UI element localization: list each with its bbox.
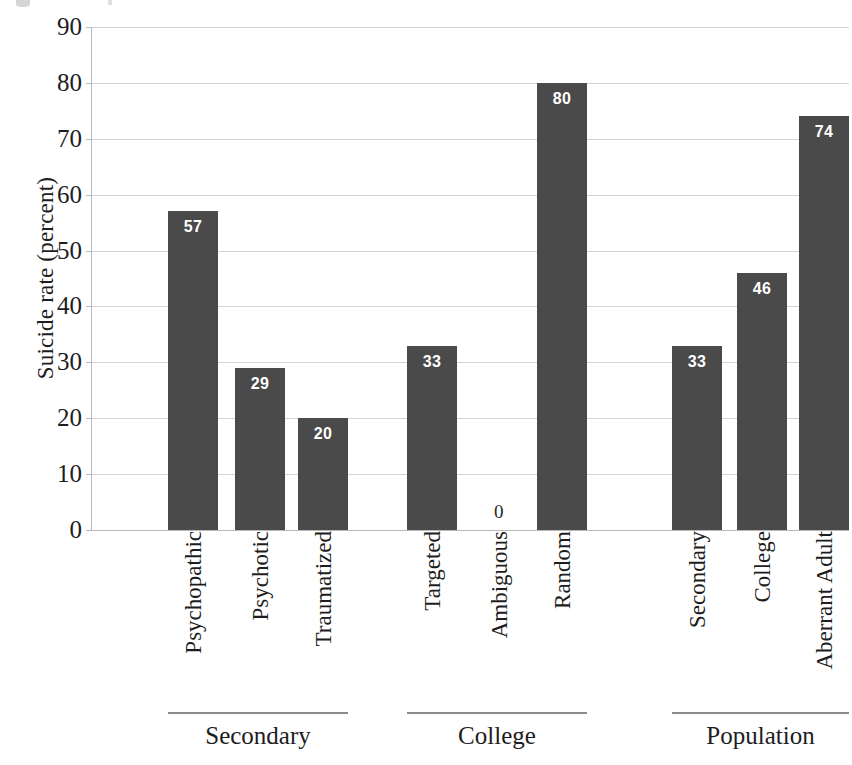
x-category-label-ambiguous: Ambiguous	[488, 531, 511, 638]
y-axis-tick-labels: 9080706050403020100	[0, 27, 82, 530]
group-block-college: College	[407, 712, 587, 748]
x-category-label-targeted: Targeted	[421, 531, 444, 611]
y-tick-label-10: 10	[12, 461, 82, 486]
y-tick-label-0: 0	[12, 517, 82, 542]
x-category-slot: Psychopathic	[168, 531, 218, 711]
x-category-slot: Secondary	[672, 531, 722, 711]
y-tick-mark-60	[86, 195, 92, 196]
group-block-secondary: Secondary	[168, 712, 348, 748]
y-tick-label-20: 20	[12, 405, 82, 430]
bar-value-label: 0	[474, 501, 524, 523]
x-category-slot: Psychotic	[235, 531, 285, 711]
bar-value-label: 80	[537, 90, 587, 108]
group-rule	[168, 712, 348, 714]
bar-chart: Suicide rate (percent) 90807060504030201…	[0, 0, 852, 765]
x-category-slot: Aberrant Adult	[799, 531, 849, 711]
page-edge-artifact-secondary	[108, 0, 112, 5]
x-category-slot: Targeted	[407, 531, 457, 711]
x-category-label-college: College	[751, 531, 774, 603]
bar-value-label: 74	[799, 123, 849, 141]
y-tick-mark-90	[86, 27, 92, 28]
group-labels: SecondaryCollegePopulation	[0, 712, 852, 765]
y-tick-mark-80	[86, 83, 92, 84]
y-tick-mark-30	[86, 362, 92, 363]
gridline-90	[92, 27, 849, 28]
bar-value-label: 29	[235, 375, 285, 393]
group-rule	[672, 712, 849, 714]
bar-secondary[interactable]: 33	[672, 346, 722, 530]
x-category-slot: Traumatized	[298, 531, 348, 711]
x-category-label-aberrant-adult: Aberrant Adult	[813, 531, 836, 670]
y-tick-label-30: 30	[12, 349, 82, 374]
gridline-80	[92, 83, 849, 84]
bar-random[interactable]: 80	[537, 83, 587, 530]
y-tick-label-70: 70	[12, 126, 82, 151]
gridline-60	[92, 195, 849, 196]
bar-value-label: 33	[407, 353, 457, 371]
y-tick-label-60: 60	[12, 182, 82, 207]
bar-psychotic[interactable]: 29	[235, 368, 285, 530]
x-category-label-traumatized: Traumatized	[312, 531, 335, 646]
group-label-college: College	[407, 723, 587, 748]
group-block-population: Population	[672, 712, 849, 748]
y-tick-label-90: 90	[12, 14, 82, 39]
bar-aberrant-adult[interactable]: 74	[799, 116, 849, 530]
x-category-label-psychotic: Psychotic	[249, 531, 272, 620]
y-tick-mark-50	[86, 251, 92, 252]
x-category-slot: Random	[537, 531, 587, 711]
bar-value-label: 33	[672, 353, 722, 371]
bar-value-label: 57	[168, 218, 218, 236]
bar-ambiguous[interactable]: 0	[474, 529, 524, 530]
group-label-secondary: Secondary	[168, 723, 348, 748]
x-axis-category-labels: PsychopathicPsychoticTraumatizedTargeted…	[92, 531, 849, 711]
bar-targeted[interactable]: 33	[407, 346, 457, 530]
x-category-slot: Ambiguous	[474, 531, 524, 711]
y-tick-mark-70	[86, 139, 92, 140]
bar-traumatized[interactable]: 20	[298, 418, 348, 530]
bar-college[interactable]: 46	[737, 273, 787, 530]
x-category-label-random: Random	[551, 531, 574, 609]
bar-psychopathic[interactable]: 57	[168, 211, 218, 530]
page-edge-artifact	[16, 0, 30, 7]
group-label-population: Population	[672, 723, 849, 748]
gridline-70	[92, 139, 849, 140]
plot-area: 57292033080334674	[92, 27, 849, 530]
y-tick-label-40: 40	[12, 293, 82, 318]
bar-value-label: 20	[298, 425, 348, 443]
y-tick-mark-10	[86, 474, 92, 475]
y-tick-mark-40	[86, 306, 92, 307]
bar-value-label: 46	[737, 280, 787, 298]
y-tick-label-50: 50	[12, 238, 82, 263]
y-tick-label-80: 80	[12, 70, 82, 95]
x-category-label-secondary: Secondary	[686, 531, 709, 628]
y-tick-mark-20	[86, 418, 92, 419]
group-rule	[407, 712, 587, 714]
x-category-slot: College	[737, 531, 787, 711]
x-category-label-psychopathic: Psychopathic	[182, 531, 205, 654]
